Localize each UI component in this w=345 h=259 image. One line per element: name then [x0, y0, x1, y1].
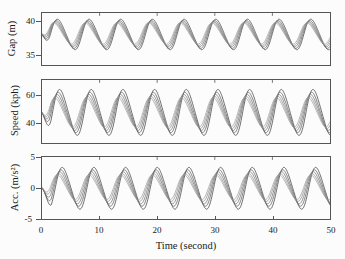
plot-acc [42, 157, 330, 219]
y-tick-speed-0: 60 [13, 91, 35, 100]
y-tick-acc-0: 5 [13, 153, 35, 162]
y-tick-acc-1: 0 [13, 184, 35, 193]
x-tick-2: 20 [145, 226, 169, 235]
series-line-acc-2 [42, 172, 330, 204]
x-tickmark-3 [215, 216, 216, 220]
x-tickmark-0 [41, 216, 42, 220]
y-tick-gap-1: 35 [13, 51, 35, 60]
panel-acc [41, 156, 331, 220]
series-line-acc-1 [42, 170, 330, 206]
x-tick-4: 40 [261, 226, 285, 235]
x-tickmark-5 [330, 216, 331, 220]
panel-speed [41, 79, 331, 144]
x-axis-label: Time (second) [41, 240, 331, 251]
y-tick-speed-1: 40 [13, 119, 35, 128]
plot-speed [42, 80, 330, 143]
y-axis-label-speed: Speed (kph) [9, 73, 20, 149]
panel-gap [41, 12, 331, 66]
x-tickmark-4 [273, 216, 274, 220]
x-tick-5: 50 [319, 226, 343, 235]
y-tick-acc-2: -5 [10, 215, 32, 224]
x-tickmark-2 [157, 216, 158, 220]
x-tickmark-1 [99, 216, 100, 220]
figure-canvas: Gap (m) 40 35 Speed (kph) 60 40 Acc. (m/… [0, 0, 345, 259]
x-tick-0: 0 [29, 226, 53, 235]
y-tick-gap-0: 40 [13, 17, 35, 26]
plot-gap [42, 13, 330, 65]
x-tick-3: 30 [203, 226, 227, 235]
cropped-header-text [0, 0, 132, 5]
x-tick-1: 10 [87, 226, 111, 235]
